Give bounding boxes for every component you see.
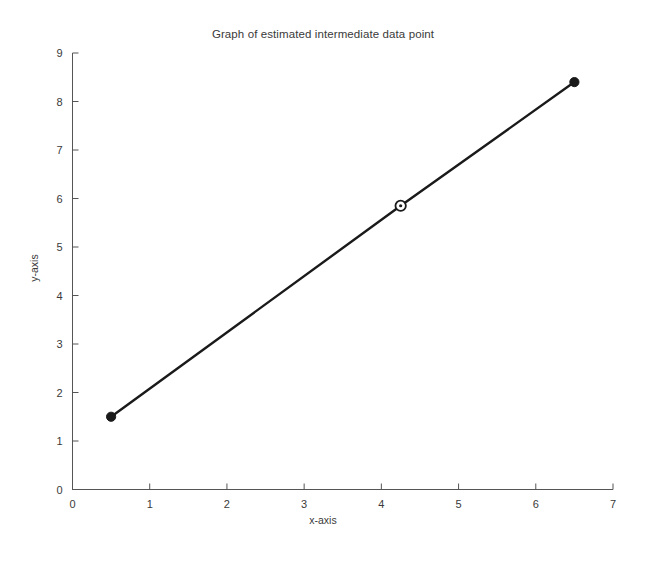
y-tick-group: 0123456789 xyxy=(56,47,78,496)
axes-group xyxy=(72,53,613,490)
plot-area: 01234567 0123456789 xyxy=(0,0,646,562)
x-tick-label: 5 xyxy=(456,498,462,510)
data-line-group xyxy=(111,82,574,417)
y-tick-label: 3 xyxy=(56,338,62,350)
x-tick-label: 6 xyxy=(533,498,539,510)
y-tick-label: 7 xyxy=(56,144,62,156)
y-tick-label: 5 xyxy=(56,241,62,253)
y-tick-label: 2 xyxy=(56,387,62,399)
x-tick-label: 7 xyxy=(610,498,616,510)
x-tick-label: 1 xyxy=(147,498,153,510)
y-tick-label: 4 xyxy=(56,290,62,302)
y-axis-label: y-axis xyxy=(28,228,40,308)
x-tick-label: 3 xyxy=(301,498,307,510)
data-series-line xyxy=(111,82,574,417)
x-axis-label: x-axis xyxy=(0,514,646,526)
x-tick-group: 01234567 xyxy=(69,484,616,510)
data-point-marker-filled xyxy=(107,412,116,421)
x-tick-label: 2 xyxy=(224,498,230,510)
y-tick-label: 0 xyxy=(56,484,62,496)
data-point-marker-filled xyxy=(570,78,579,87)
figure-canvas: Graph of estimated intermediate data poi… xyxy=(0,0,646,562)
y-tick-label: 6 xyxy=(56,193,62,205)
x-tick-label: 0 xyxy=(69,498,75,510)
data-point-marker-center-dot xyxy=(399,204,402,207)
x-tick-label: 4 xyxy=(378,498,384,510)
y-tick-label: 9 xyxy=(56,47,62,59)
y-tick-label: 8 xyxy=(56,96,62,108)
y-tick-label: 1 xyxy=(56,435,62,447)
